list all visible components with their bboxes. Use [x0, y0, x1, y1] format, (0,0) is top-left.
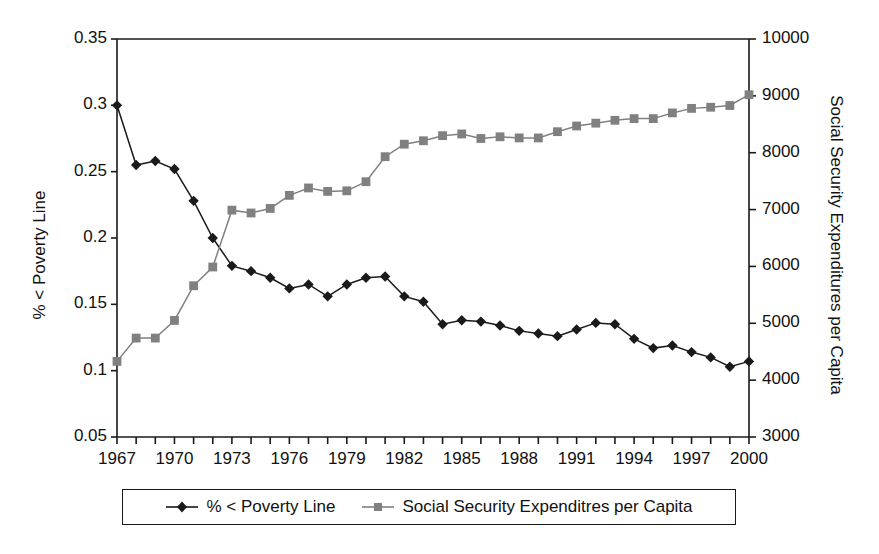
legend-item-social-security: Social Security Expenditres per Capita [361, 497, 692, 517]
diamond-marker-icon [165, 499, 199, 515]
x-tick-1982: 1982 [374, 449, 434, 469]
legend-item-poverty: % < Poverty Line [165, 497, 335, 517]
x-tick-1979: 1979 [317, 449, 377, 469]
legend-label-social-security: Social Security Expenditres per Capita [402, 497, 692, 517]
x-tick-2000: 2000 [719, 449, 779, 469]
y-tick-right-7000: 7000 [762, 199, 832, 219]
y-tick-left-0.3: 0.3 [47, 94, 107, 114]
y-tick-left-0.25: 0.25 [47, 161, 107, 181]
y-tick-right-3000: 3000 [762, 426, 832, 446]
x-tick-1997: 1997 [662, 449, 722, 469]
y-tick-left-0.35: 0.35 [47, 28, 107, 48]
y-tick-left-0.15: 0.15 [47, 293, 107, 313]
x-tick-1991: 1991 [547, 449, 607, 469]
x-tick-1970: 1970 [144, 449, 204, 469]
y-tick-right-9000: 9000 [762, 85, 832, 105]
square-marker-icon [361, 499, 395, 515]
x-tick-1985: 1985 [432, 449, 492, 469]
x-tick-1967: 1967 [87, 449, 147, 469]
x-tick-1973: 1973 [202, 449, 262, 469]
y-tick-left-0.2: 0.2 [47, 227, 107, 247]
plot-area [0, 0, 879, 554]
y-tick-left-0.05: 0.05 [47, 426, 107, 446]
y-tick-right-5000: 5000 [762, 312, 832, 332]
x-tick-1994: 1994 [604, 449, 664, 469]
y-tick-right-8000: 8000 [762, 142, 832, 162]
y-tick-right-4000: 4000 [762, 369, 832, 389]
y-tick-right-10000: 10000 [762, 28, 832, 48]
chart-figure: % < Poverty Line Social Security Expendi… [0, 0, 879, 554]
y-tick-right-6000: 6000 [762, 255, 832, 275]
chart-legend: % < Poverty Line Social Security Expendi… [122, 489, 736, 525]
legend-label-poverty: % < Poverty Line [206, 497, 335, 517]
y-tick-left-0.1: 0.1 [47, 360, 107, 380]
series-poverty-line [112, 100, 754, 372]
x-tick-1988: 1988 [489, 449, 549, 469]
x-tick-1976: 1976 [259, 449, 319, 469]
series-social-security [113, 90, 754, 365]
